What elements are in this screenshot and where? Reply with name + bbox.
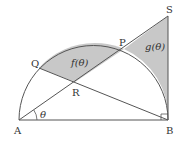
label-r: R — [72, 87, 80, 98]
geometry-diagram: A B S P Q R θ f(θ) g(θ) — [0, 0, 186, 147]
label-g-theta: g(θ) — [145, 41, 165, 52]
label-theta: θ — [40, 109, 46, 120]
label-a: A — [13, 125, 22, 136]
segment-qb — [39, 68, 168, 120]
label-f-theta: f(θ) — [70, 57, 89, 68]
label-q: Q — [31, 58, 39, 69]
label-s: S — [166, 4, 173, 15]
angle-arc — [34, 110, 37, 120]
label-b: B — [166, 125, 173, 136]
label-p: P — [119, 37, 126, 48]
